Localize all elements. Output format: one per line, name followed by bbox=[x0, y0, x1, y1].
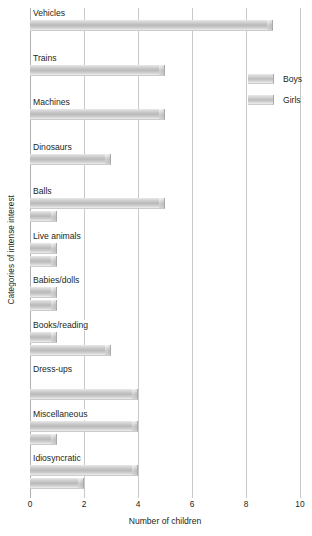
legend-label-girls: Girls bbox=[283, 95, 301, 105]
bar-group: Babies/dolls bbox=[30, 275, 300, 320]
y-axis-title-text: Categories of intense interest bbox=[7, 195, 16, 305]
bar-boys bbox=[30, 109, 165, 120]
bar-boys bbox=[30, 421, 138, 432]
bar-group: Dinosaurs bbox=[30, 142, 300, 187]
legend-swatch-boys bbox=[248, 74, 274, 84]
bar-group: Vehicles bbox=[30, 8, 300, 53]
legend-item-girls: Girls bbox=[248, 93, 302, 107]
x-axis-ticks: 0246810 bbox=[30, 499, 300, 513]
x-tick-label-8: 8 bbox=[244, 499, 249, 509]
x-axis-title: Number of children bbox=[30, 516, 300, 526]
x-tick-label-0: 0 bbox=[28, 499, 33, 509]
category-label: Trains bbox=[33, 53, 59, 64]
category-label: Vehicles bbox=[33, 8, 67, 19]
legend-item-boys: Boys bbox=[248, 72, 302, 86]
bar-girls bbox=[30, 345, 111, 356]
bar-group: Books/reading bbox=[30, 320, 300, 365]
bar-group: Miscellaneous bbox=[30, 409, 300, 454]
category-label: Dress-ups bbox=[33, 364, 74, 375]
plot-area: VehiclesTrainsMachinesDinosaursBallsLive… bbox=[30, 8, 300, 498]
category-label: Dinosaurs bbox=[33, 142, 74, 153]
bar-boys bbox=[30, 198, 165, 209]
bar-boys bbox=[30, 465, 138, 476]
category-label: Babies/dolls bbox=[33, 275, 81, 286]
bar-girls bbox=[30, 389, 138, 400]
bar-boys bbox=[30, 243, 57, 254]
bar-group: Dress-ups bbox=[30, 364, 300, 409]
bar-girls bbox=[30, 434, 57, 445]
bar-girls bbox=[30, 478, 84, 489]
category-label: Idiosyncratic bbox=[33, 453, 83, 464]
x-tick-label-10: 10 bbox=[295, 499, 304, 509]
legend-label-boys: Boys bbox=[283, 74, 302, 84]
category-label: Miscellaneous bbox=[33, 409, 89, 420]
x-tick-label-6: 6 bbox=[190, 499, 195, 509]
category-label: Live animals bbox=[33, 231, 83, 242]
bar-boys bbox=[30, 20, 273, 31]
bar-group: Idiosyncratic bbox=[30, 453, 300, 498]
bar-group: Live animals bbox=[30, 231, 300, 276]
legend-swatch-girls bbox=[248, 95, 274, 105]
x-tick-label-4: 4 bbox=[136, 499, 141, 509]
bar-girls bbox=[30, 256, 57, 267]
x-tick-label-2: 2 bbox=[82, 499, 87, 509]
legend: Boys Girls bbox=[248, 72, 302, 114]
category-label: Balls bbox=[33, 186, 54, 197]
bar-boys bbox=[30, 65, 165, 76]
bar-group: Balls bbox=[30, 186, 300, 231]
bar-girls bbox=[30, 300, 57, 311]
bar-boys bbox=[30, 287, 57, 298]
category-label: Machines bbox=[33, 97, 72, 108]
y-axis-title: Categories of intense interest bbox=[0, 0, 22, 500]
category-label: Books/reading bbox=[33, 320, 90, 331]
bar-boys bbox=[30, 154, 111, 165]
bar-chart: Categories of intense interest VehiclesT… bbox=[0, 0, 312, 536]
bar-boys bbox=[30, 332, 57, 343]
bar-girls bbox=[30, 211, 57, 222]
